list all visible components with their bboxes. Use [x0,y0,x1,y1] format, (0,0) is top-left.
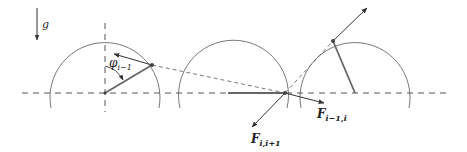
force-arrow-F-i-1-i [285,93,324,103]
bob-1 [150,63,154,67]
bob-2 [283,91,287,95]
force-label-F-i-1-i: Fi−1,i [316,107,347,123]
pendulum-chain-diagram: g φi−1 Fi,i+1 Fi−1,i [0,0,467,152]
circle-arc-1 [50,43,160,108]
force-arrow-bob3 [333,8,367,41]
force-arrow-F-i-i+1 [252,93,285,127]
connector-dashed-1 [152,65,285,93]
bob-3 [331,39,335,43]
pivot-1 [104,92,107,95]
circle-arc-3 [300,43,410,108]
force-label-F-i-i+1: Fi,i+1 [250,132,281,148]
connector-dashed-2 [285,41,333,93]
rod-3 [333,41,355,93]
gravity-label: g [42,18,49,31]
